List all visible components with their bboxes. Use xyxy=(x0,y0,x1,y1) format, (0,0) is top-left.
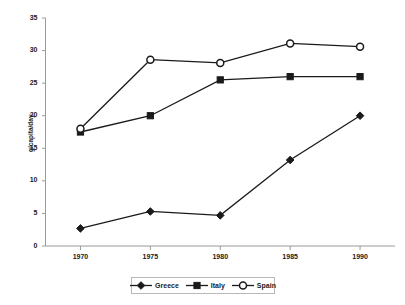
y-tick-label: 25 xyxy=(22,79,38,86)
series-line xyxy=(80,43,360,128)
x-tick-label: 1985 xyxy=(270,253,310,260)
legend-label: Spain xyxy=(257,282,276,289)
data-point-marker xyxy=(239,282,246,289)
y-tick-label: 30 xyxy=(22,46,38,53)
legend-entry-spain: Spain xyxy=(232,280,276,291)
data-point-marker xyxy=(357,43,364,50)
data-point-marker xyxy=(217,77,223,83)
open-circle-icon xyxy=(232,280,254,291)
filled-square-icon xyxy=(186,280,208,291)
y-tick-label: 0 xyxy=(22,242,38,249)
data-point-marker xyxy=(147,56,154,63)
series-spain xyxy=(77,40,364,132)
legend-entry-italy: Italy xyxy=(186,280,225,291)
data-point-marker xyxy=(77,225,85,233)
legend-label: Greece xyxy=(155,282,179,289)
y-tick-label: 5 xyxy=(22,209,38,216)
data-point-marker xyxy=(217,59,224,66)
data-point-marker xyxy=(287,40,294,47)
y-tick-label: 10 xyxy=(22,176,38,183)
x-tick-label: 1975 xyxy=(130,253,170,260)
data-point-marker xyxy=(356,112,364,120)
legend-entry-greece: Greece xyxy=(130,280,179,291)
x-tick-label: 1970 xyxy=(60,253,100,260)
data-point-marker xyxy=(287,74,293,80)
chart-legend: GreeceItalySpain xyxy=(131,277,275,294)
series-line xyxy=(80,77,360,132)
y-tick-label: 15 xyxy=(22,144,38,151)
data-point-marker xyxy=(147,113,153,119)
filled-diamond-icon xyxy=(130,280,152,291)
legend-label: Italy xyxy=(211,282,225,289)
y-tick-label: 20 xyxy=(22,111,38,118)
line-chart: g/capita/day 05101520253035 197019751980… xyxy=(0,0,405,305)
data-point-marker xyxy=(357,74,363,80)
series-greece xyxy=(77,112,364,232)
data-point-marker xyxy=(194,282,200,288)
data-point-marker xyxy=(147,208,155,216)
series-italy xyxy=(77,74,363,136)
x-tick-label: 1990 xyxy=(340,253,380,260)
y-tick-label: 35 xyxy=(22,14,38,21)
data-point-marker xyxy=(77,125,84,132)
data-point-marker xyxy=(137,282,145,290)
x-tick-label: 1980 xyxy=(200,253,240,260)
